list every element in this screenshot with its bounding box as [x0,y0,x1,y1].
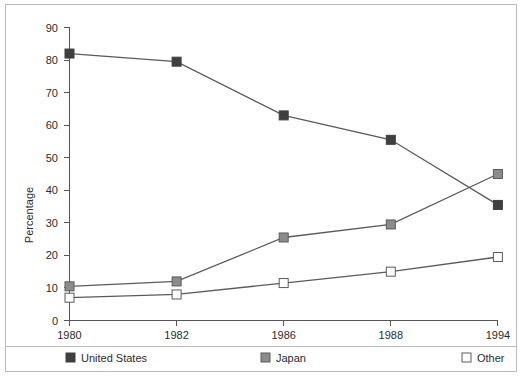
y-tick-label: 60 [46,119,58,131]
y-tick-label: 30 [46,217,58,229]
data-point-marker [172,277,181,286]
data-point-marker [386,220,395,229]
series-other [65,253,502,303]
y-axis-tick-labels: 90 80 70 60 50 40 30 20 10 0 [46,22,58,327]
data-point-marker [493,170,502,179]
y-tick-label: 80 [46,54,58,66]
series-japan [65,170,502,291]
y-axis-ticks [64,28,70,321]
data-point-marker [279,233,288,242]
data-point-marker [493,200,502,209]
x-tick-label-1994: 1994 [486,329,510,341]
open-square-marker-icon [462,353,471,362]
y-tick-label: 10 [46,282,58,294]
y-tick-label: 20 [46,249,58,261]
data-point-marker [493,253,502,262]
series-united-states [65,49,502,209]
chart-svg: Percentage 90 80 70 60 50 40 30 20 [0,0,523,378]
y-axis-title: Percentage [23,187,35,243]
series-line [70,54,498,205]
x-tick-label-1988: 1988 [379,329,403,341]
data-point-marker [279,111,288,120]
data-point-marker [172,57,181,66]
line-chart: Percentage 90 80 70 60 50 40 30 20 [0,0,523,378]
data-point-marker [279,279,288,288]
legend-label-united-states: United States [81,352,148,364]
x-axis-ticks [70,321,498,327]
data-point-marker [65,49,74,58]
data-point-marker [65,282,74,291]
data-series-layer [65,49,502,302]
series-line [70,174,498,286]
x-tick-label-1982: 1982 [164,329,188,341]
y-tick-label: 40 [46,184,58,196]
y-tick-label: 0 [52,315,58,327]
x-axis-tick-labels: 1980 1982 1986 1988 1994 [57,329,510,341]
legend-label-other: Other [477,352,505,364]
y-tick-label: 70 [46,87,58,99]
gray-square-marker-icon [261,353,270,362]
series-line [70,257,498,298]
x-tick-label-1980: 1980 [57,329,81,341]
chart-legend: United States Japan Other [66,352,505,364]
y-tick-label: 90 [46,22,58,34]
filled-square-marker-icon [66,353,75,362]
data-point-marker [65,293,74,302]
x-tick-label-1986: 1986 [271,329,295,341]
data-point-marker [172,290,181,299]
y-tick-label: 50 [46,152,58,164]
legend-label-japan: Japan [276,352,306,364]
data-point-marker [386,267,395,276]
data-point-marker [386,135,395,144]
